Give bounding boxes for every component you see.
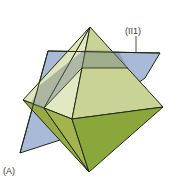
octahedron-diagram: (īī1) (A): [0, 0, 179, 181]
plane-label: (īī1): [125, 26, 141, 36]
panel-label: (A): [3, 166, 15, 176]
face-lower-front-right: [72, 107, 163, 172]
